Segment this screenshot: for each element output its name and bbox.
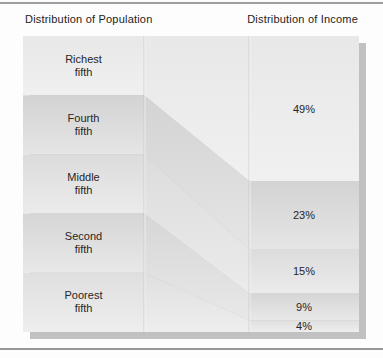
figure: Distribution of Population Distribution … — [0, 0, 383, 358]
income-band-label: 4% — [249, 320, 359, 332]
population-title: Distribution of Population — [25, 13, 153, 25]
population-band-label: Middle fifth — [23, 171, 144, 197]
population-band-label-line1: Fourth — [23, 112, 144, 125]
population-band-label-line1: Second — [23, 230, 144, 243]
population-band-label-line2: fifth — [23, 184, 144, 197]
income-band-label: 9% — [249, 301, 359, 313]
income-band-label: 15% — [249, 265, 359, 277]
population-band-label: Second fifth — [23, 230, 144, 256]
population-band-label-line2: fifth — [23, 302, 144, 315]
population-band-label: Richest fifth — [23, 53, 144, 79]
top-rule — [0, 2, 383, 4]
population-band-label: Poorest fifth — [23, 289, 144, 315]
population-band-label-line1: Middle — [23, 171, 144, 184]
labels-layer: Richest fifth Fourth fifth Middle fifth … — [23, 36, 359, 332]
bottom-rule — [0, 348, 383, 350]
population-band-label-line1: Richest — [23, 53, 144, 66]
income-band-label: 49% — [249, 103, 359, 115]
income-title: Distribution of Income — [247, 13, 358, 25]
income-band-label: 23% — [249, 209, 359, 221]
population-band-label-line2: fifth — [23, 243, 144, 256]
population-band-label-line2: fifth — [23, 125, 144, 138]
flow-chart: Richest fifth Fourth fifth Middle fifth … — [23, 36, 359, 332]
population-band-label-line1: Poorest — [23, 289, 144, 302]
population-band-label: Fourth fifth — [23, 112, 144, 138]
population-band-label-line2: fifth — [23, 66, 144, 79]
